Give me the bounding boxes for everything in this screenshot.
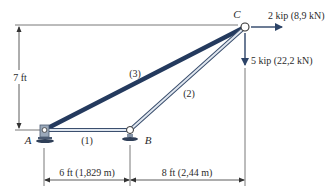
ab-dimension: 6 ft (1,829 m)	[45, 167, 129, 180]
support-b-post	[127, 134, 133, 137]
support-b: B	[122, 127, 152, 147]
height-dimension: 7 ft	[8, 25, 238, 130]
ab-dimension-label: 6 ft (1,829 m)	[59, 167, 115, 179]
support-b-ground	[122, 137, 138, 141]
support-a-ground	[36, 139, 54, 143]
horizontal-load-label: 2 kip (8,9 kN)	[268, 10, 325, 22]
pin-c-icon	[241, 23, 249, 31]
pin-a-icon	[42, 128, 47, 133]
truss-diagram: 7 ft (3) (2) (1) A B C 2 kip (8,	[0, 0, 331, 193]
load-vertical: 5 kip (22,2 kN)	[245, 33, 313, 67]
height-label: 7 ft	[13, 72, 27, 83]
member-1: (1)	[46, 130, 130, 147]
vertical-load-label: 5 kip (22,2 kN)	[251, 55, 313, 67]
member-3-label: (3)	[129, 68, 141, 80]
member-1-label: (1)	[81, 135, 93, 147]
node-c: C	[233, 8, 249, 31]
member-3-bar	[46, 28, 243, 129]
pin-b-icon	[127, 127, 134, 134]
node-b-label: B	[145, 134, 152, 146]
bc-dimension-label: 8 ft (2,44 m)	[162, 167, 213, 179]
member-3: (3)	[46, 28, 243, 129]
member-2-label: (2)	[183, 88, 195, 100]
support-a-base	[38, 137, 52, 139]
load-horizontal: 2 kip (8,9 kN)	[251, 10, 325, 27]
node-c-label: C	[233, 8, 241, 20]
node-a-label: A	[24, 134, 32, 146]
bc-dimension: 8 ft (2,44 m)	[131, 167, 244, 180]
